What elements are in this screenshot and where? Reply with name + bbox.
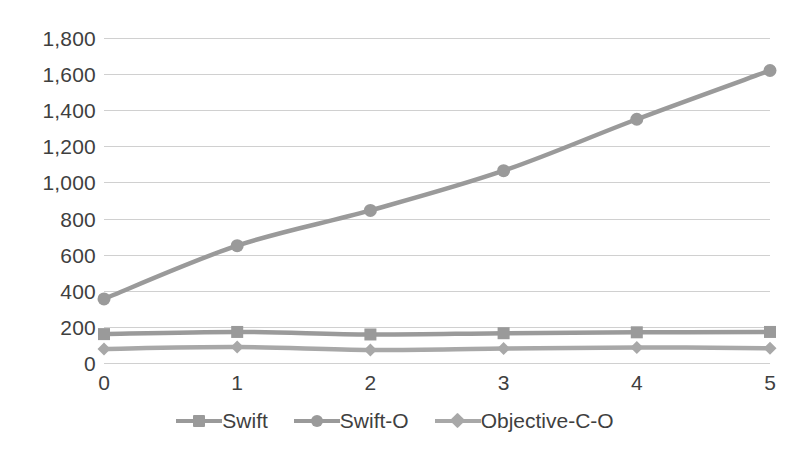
legend-label: Swift [222, 410, 268, 431]
data-point-marker [231, 239, 244, 252]
data-point-marker [231, 326, 243, 338]
series-line [104, 332, 770, 335]
data-point-marker [364, 344, 377, 357]
legend-item-swift[interactable]: Swift [176, 410, 268, 431]
data-point-marker [630, 113, 643, 126]
data-point-marker [631, 326, 643, 338]
legend-item-swift-o[interactable]: Swift-O [294, 410, 409, 431]
data-point-marker [497, 164, 510, 177]
legend-swatch-square-icon [176, 411, 222, 431]
chart-legend: SwiftSwift-OObjective-C-O [0, 410, 790, 431]
legend-marker-circle-icon [311, 415, 323, 427]
series-line [104, 347, 770, 350]
data-point-marker [498, 327, 510, 339]
data-point-marker [764, 64, 777, 77]
legend-swatch-diamond-icon [435, 411, 481, 431]
legend-label: Objective-C-O [481, 410, 614, 431]
legend-swatch-circle-icon [294, 411, 340, 431]
legend-label: Swift-O [340, 410, 409, 431]
series-objective-c-o [98, 341, 777, 357]
data-point-marker [98, 342, 111, 355]
data-point-marker [630, 341, 643, 354]
data-point-marker [231, 341, 244, 354]
data-point-marker [497, 342, 510, 355]
legend-marker-square-icon [193, 415, 205, 427]
data-point-marker [364, 204, 377, 217]
series-swift [98, 326, 776, 341]
legend-marker-diamond-icon [449, 412, 465, 428]
line-chart: 02004006008001,0001,2001,4001,6001,800 0… [0, 0, 790, 463]
series-layer [0, 0, 790, 463]
legend-item-objective-c-o[interactable]: Objective-C-O [435, 410, 614, 431]
data-point-marker [98, 328, 110, 340]
data-point-marker [98, 292, 111, 305]
data-point-marker [764, 342, 777, 355]
data-point-marker [764, 326, 776, 338]
data-point-marker [364, 328, 376, 340]
series-swift-o [98, 64, 777, 305]
series-line [104, 71, 770, 299]
